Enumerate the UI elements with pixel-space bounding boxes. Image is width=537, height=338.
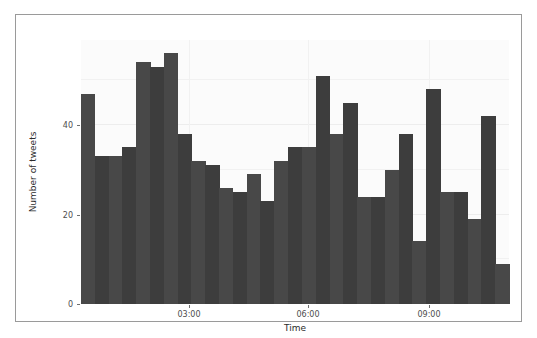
y-tick-mark: [77, 125, 80, 126]
bar: [178, 134, 192, 304]
figure-border: Number of tweets Time 02040 03:0006:0009…: [15, 14, 522, 322]
bar: [371, 197, 385, 304]
bar: [233, 192, 247, 304]
bar: [426, 89, 440, 304]
bar: [109, 156, 123, 304]
y-tick-label: 20: [16, 210, 73, 219]
bar: [481, 116, 495, 304]
bar: [136, 62, 150, 304]
bar: [399, 134, 413, 304]
x-tick-mark: [189, 305, 190, 308]
bar: [330, 134, 344, 304]
bar: [468, 219, 482, 304]
y-tick-mark: [77, 215, 80, 216]
x-tick-label: 09:00: [417, 310, 440, 319]
plot-panel: [81, 40, 509, 304]
y-tick-label: 40: [16, 121, 73, 130]
bar-series: [81, 40, 509, 304]
bar: [95, 156, 109, 304]
x-tick-mark: [308, 305, 309, 308]
bar: [260, 201, 274, 304]
bar: [343, 103, 357, 304]
bar: [164, 53, 178, 304]
bar: [495, 264, 509, 304]
bar: [357, 197, 371, 304]
bar: [81, 94, 95, 304]
bar: [247, 174, 261, 304]
bar: [302, 147, 316, 304]
bar: [205, 165, 219, 304]
bar: [316, 76, 330, 304]
bar: [385, 170, 399, 304]
bar: [454, 192, 468, 304]
bar: [219, 188, 233, 304]
bar: [412, 241, 426, 304]
y-axis-label: Number of tweets: [28, 132, 38, 213]
x-tick-label: 03:00: [177, 310, 200, 319]
y-tick-label: 0: [16, 300, 73, 309]
x-tick-label: 06:00: [296, 310, 319, 319]
bar: [191, 161, 205, 304]
bar: [288, 147, 302, 304]
y-tick-mark: [77, 304, 80, 305]
bar: [122, 147, 136, 304]
bar: [150, 67, 164, 304]
bar: [274, 161, 288, 304]
chart-figure: Number of tweets Time 02040 03:0006:0009…: [0, 0, 537, 338]
x-tick-mark: [429, 305, 430, 308]
bar: [440, 192, 454, 304]
x-axis-label: Time: [284, 323, 306, 333]
